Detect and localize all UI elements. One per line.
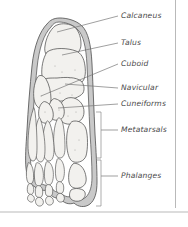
label-phalanges: Phalanges [121, 171, 161, 180]
phalanx-middle-4 [35, 186, 43, 198]
metatarsal-1 [67, 121, 88, 162]
phalanx-distal-5 [28, 194, 35, 202]
foot-anatomy-diagram: Calcaneus Talus Cuboid Navicular Cuneifo… [0, 0, 188, 227]
foot-bones-figure: Calcaneus Talus Cuboid Navicular Cuneifo… [0, 0, 188, 227]
label-group: Calcaneus Talus Cuboid Navicular Cuneifo… [121, 11, 167, 180]
phalanx-distal-4 [36, 197, 44, 206]
phalanx-distal-2 [57, 193, 65, 202]
phalanx-middle-5 [27, 184, 34, 195]
label-cuneiforms: Cuneiforms [121, 99, 166, 108]
phalanx-middle-2 [56, 182, 64, 194]
metatarsals-bracket [96, 112, 101, 158]
label-talus: Talus [121, 38, 141, 47]
label-metatarsals: Metatarsals [121, 125, 167, 134]
phalanx-distal-1 [70, 189, 86, 202]
label-calcaneus: Calcaneus [121, 11, 162, 20]
phalanx-distal-3 [46, 196, 54, 205]
label-cuboid: Cuboid [121, 59, 148, 68]
label-navicular: Navicular [121, 83, 159, 92]
phalanx-middle-3 [45, 185, 53, 197]
